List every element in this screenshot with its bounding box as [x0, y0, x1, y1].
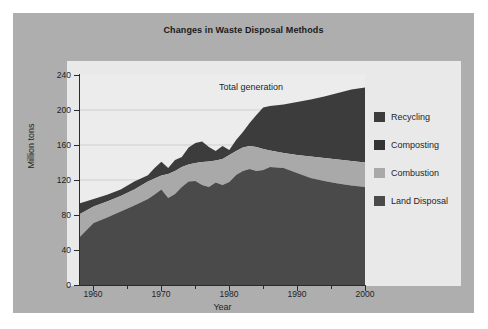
x-tick-label-1980: 1980: [209, 289, 249, 299]
y-tick-mark-0: [74, 285, 79, 286]
legend-swatch-combustion: [374, 168, 385, 178]
y-tick-mark-200: [74, 110, 79, 111]
legend-swatch-land-disposal: [374, 196, 385, 206]
y-axis-line: [79, 74, 80, 286]
legend: Recycling Composting Combustion Land Dis…: [374, 103, 469, 215]
x-tick-label-1990: 1990: [277, 289, 317, 299]
x-tick-mark-1995: [331, 286, 332, 289]
chart-title: Changes in Waste Disposal Methods: [13, 25, 474, 35]
total-generation-annotation: Total generation: [219, 82, 283, 92]
legend-item-composting[interactable]: Composting: [374, 131, 469, 159]
stacked-area-chart: [80, 75, 365, 285]
figure-panel: Changes in Waste Disposal Methods: [13, 13, 474, 313]
y-tick-label-80: 80: [45, 210, 71, 220]
x-axis-line: [79, 285, 366, 286]
x-tick-mark-1965: [127, 286, 128, 289]
x-tick-mark-1975: [195, 286, 196, 289]
legend-label-composting: Composting: [391, 140, 439, 150]
y-tick-label-0: 0: [45, 280, 71, 290]
y-tick-label-120: 120: [45, 175, 71, 185]
plot-area: [80, 75, 365, 285]
x-axis-title: Year: [79, 302, 366, 312]
y-tick-mark-240: [74, 75, 79, 76]
legend-item-recycling[interactable]: Recycling: [374, 103, 469, 131]
y-tick-label-40: 40: [45, 245, 71, 255]
x-tick-label-1970: 1970: [141, 289, 181, 299]
y-tick-mark-40: [74, 250, 79, 251]
x-tick-mark-1985: [263, 286, 264, 289]
legend-label-land-disposal: Land Disposal: [391, 196, 448, 206]
y-tick-label-240: 240: [45, 70, 71, 80]
legend-label-combustion: Combustion: [391, 168, 439, 178]
y-tick-mark-160: [74, 145, 79, 146]
legend-label-recycling: Recycling: [391, 112, 430, 122]
x-tick-label-1960: 1960: [73, 289, 113, 299]
y-tick-label-160: 160: [45, 140, 71, 150]
y-tick-mark-120: [74, 180, 79, 181]
x-tick-label-2000: 2000: [345, 289, 385, 299]
y-tick-mark-80: [74, 215, 79, 216]
legend-swatch-recycling: [374, 112, 385, 122]
legend-item-land-disposal[interactable]: Land Disposal: [374, 187, 469, 215]
legend-item-combustion[interactable]: Combustion: [374, 159, 469, 187]
legend-swatch-composting: [374, 140, 385, 150]
y-tick-label-200: 200: [45, 105, 71, 115]
y-axis-title: Million tons: [26, 101, 36, 191]
